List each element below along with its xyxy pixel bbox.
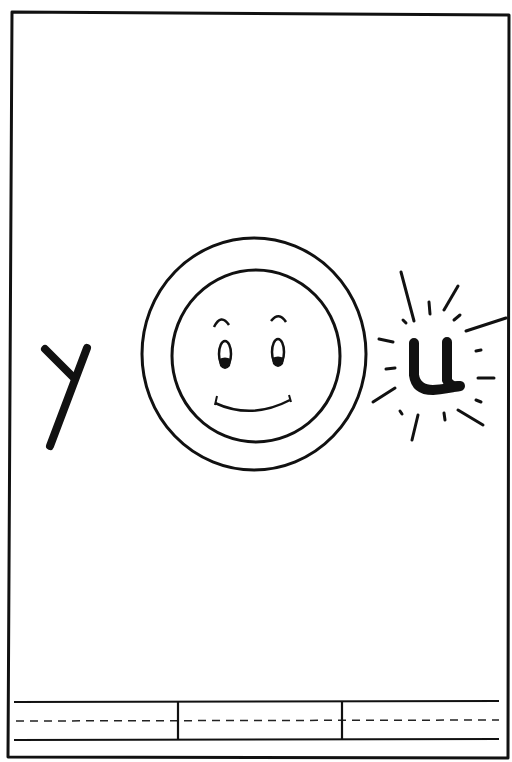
smiley-face-icon [142,238,366,470]
letter-y [45,348,87,446]
worksheet-page: you [0,0,512,762]
worksheet-canvas [0,0,512,762]
sparkle-rays-icon [373,272,506,440]
handwriting-lines[interactable] [14,701,499,740]
letter-u [414,342,460,390]
